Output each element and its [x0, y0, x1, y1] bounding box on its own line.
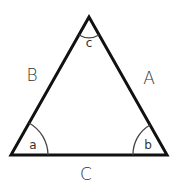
angle-label-b: b: [144, 138, 152, 152]
angle-label-a: a: [29, 138, 36, 152]
side-label-c: C: [80, 164, 92, 184]
side-label-a: A: [143, 68, 155, 88]
triangle-diagram: B A C a b c: [0, 0, 174, 191]
angle-label-c: c: [86, 36, 93, 50]
side-label-b: B: [26, 65, 37, 85]
